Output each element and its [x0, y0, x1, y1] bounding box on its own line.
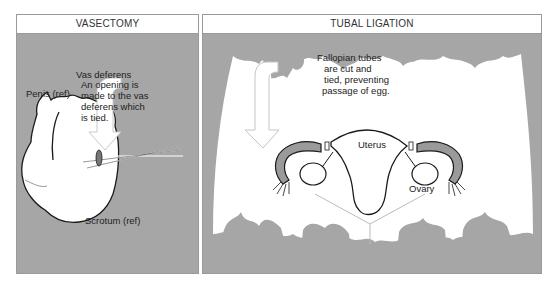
- ovary-right: [412, 163, 438, 185]
- label-tubal-desc-4: passage of egg.: [322, 86, 390, 96]
- tube-cut-right: [409, 142, 413, 150]
- tube-cut-left: [325, 142, 329, 150]
- label-tubal-desc-3: tied, preventing: [324, 75, 389, 85]
- label-vas-desc-1: An opening is: [81, 80, 139, 90]
- vasectomy-title: VASECTOMY: [17, 15, 198, 34]
- vasectomy-panel: VASECTOMY Vas deferens An opening is ma: [16, 14, 199, 274]
- label-scrotum: Scrotum (ref): [85, 216, 140, 226]
- label-ovary: Ovary: [409, 184, 434, 194]
- tubal-ligation-drawing: [203, 34, 541, 273]
- tubal-ligation-illustration: Fallopian tubes are cut and tied, preven…: [203, 34, 541, 273]
- ovary-left: [300, 163, 326, 185]
- incision: [96, 150, 102, 166]
- label-vas-desc-2: made to the vas: [81, 91, 149, 101]
- label-tubal-desc-2: are cut and: [324, 64, 372, 74]
- label-vas-desc-4: is tied.: [81, 113, 108, 123]
- label-uterus: Uterus: [358, 140, 386, 150]
- label-penis: Penis (ref): [26, 89, 70, 99]
- tubal-ligation-title: TUBAL LIGATION: [203, 15, 541, 34]
- label-vas-desc-3: deferens which: [81, 102, 145, 112]
- label-tubal-desc-1: Fallopian tubes: [317, 53, 381, 63]
- tubal-ligation-panel: TUBAL LIGATION: [202, 14, 542, 274]
- vasectomy-illustration: Vas deferens An opening is made to the v…: [17, 34, 198, 273]
